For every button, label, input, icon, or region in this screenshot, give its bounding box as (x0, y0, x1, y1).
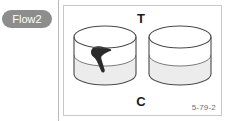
vertical-divider (58, 0, 59, 121)
figure-code: 5-79-2 (192, 103, 216, 112)
beaker-diagram (64, 24, 221, 100)
right-beaker (149, 26, 211, 90)
left-beaker (74, 26, 136, 90)
flow-badge[interactable]: Flow2 (2, 10, 52, 28)
illustration-panel: T C 5-79-2 (63, 5, 222, 116)
